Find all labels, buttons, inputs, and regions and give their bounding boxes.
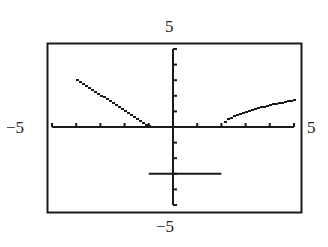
calculator-graph-figure: 5 −5 −5 5 xyxy=(0,0,328,247)
piece-3-curve xyxy=(221,99,296,128)
piece-1-curve xyxy=(76,79,151,127)
plot-area xyxy=(0,0,328,247)
axes xyxy=(52,49,294,205)
